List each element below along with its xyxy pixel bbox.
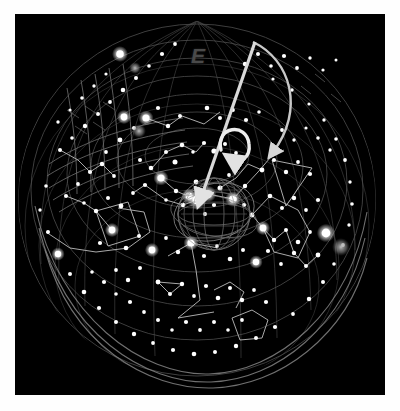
star xyxy=(156,280,161,285)
star xyxy=(64,194,68,198)
star xyxy=(58,148,62,152)
star xyxy=(100,162,104,166)
star xyxy=(308,56,311,59)
star xyxy=(295,66,299,70)
star xyxy=(114,268,118,272)
star xyxy=(216,296,221,301)
star xyxy=(171,348,175,352)
star xyxy=(280,128,284,132)
star xyxy=(292,138,295,141)
star xyxy=(170,328,174,332)
star xyxy=(308,230,312,234)
star xyxy=(292,196,296,200)
star xyxy=(156,318,160,322)
star xyxy=(234,344,238,348)
star xyxy=(112,174,116,178)
star xyxy=(304,126,307,129)
star xyxy=(218,116,222,120)
star xyxy=(118,138,123,143)
star xyxy=(335,59,338,62)
star xyxy=(106,196,110,200)
star xyxy=(124,246,129,251)
star xyxy=(119,204,124,209)
bright-star xyxy=(322,229,331,238)
star xyxy=(284,228,288,232)
star xyxy=(348,180,351,183)
star xyxy=(168,292,172,296)
star xyxy=(173,42,177,46)
star xyxy=(164,236,168,240)
star xyxy=(228,286,232,290)
star xyxy=(307,102,310,105)
star xyxy=(138,266,142,270)
star xyxy=(137,234,141,238)
star xyxy=(254,336,258,340)
star xyxy=(192,294,196,298)
bright-star xyxy=(109,227,116,234)
star xyxy=(88,170,92,174)
bright-star xyxy=(260,225,267,232)
star xyxy=(114,292,118,296)
sky-chart-canvas xyxy=(15,14,385,395)
star xyxy=(292,251,296,255)
star xyxy=(304,264,308,268)
star xyxy=(38,208,41,211)
star xyxy=(243,184,247,188)
star xyxy=(176,250,180,254)
star xyxy=(266,249,270,253)
star xyxy=(132,332,136,336)
star xyxy=(304,208,308,212)
star xyxy=(191,150,195,154)
sky-chart-plate: E xyxy=(15,14,385,395)
star xyxy=(343,158,347,162)
star xyxy=(264,300,268,304)
star xyxy=(308,172,312,176)
star xyxy=(76,182,80,186)
star xyxy=(307,297,311,301)
star xyxy=(97,306,101,310)
star xyxy=(332,262,336,266)
star xyxy=(213,350,217,354)
star xyxy=(282,54,286,58)
star xyxy=(180,143,185,148)
star xyxy=(174,189,178,193)
star xyxy=(121,88,126,93)
star xyxy=(164,198,168,202)
star xyxy=(108,100,112,104)
compass-marker-east: E xyxy=(191,45,204,66)
star xyxy=(226,328,230,332)
star xyxy=(204,284,208,288)
star xyxy=(83,124,87,128)
bright-star xyxy=(121,114,128,121)
star xyxy=(192,352,197,357)
star xyxy=(104,150,108,154)
star xyxy=(82,290,87,295)
star xyxy=(173,160,178,165)
star xyxy=(279,262,283,266)
bright-star xyxy=(149,247,156,254)
star xyxy=(241,248,245,252)
bright-star xyxy=(55,251,61,257)
star xyxy=(147,64,151,68)
star xyxy=(272,158,276,162)
star xyxy=(166,124,170,128)
star xyxy=(321,68,324,71)
star xyxy=(202,141,206,145)
star xyxy=(94,209,98,213)
star xyxy=(180,282,184,286)
star xyxy=(68,272,72,276)
star xyxy=(321,280,325,284)
star xyxy=(273,325,277,329)
star xyxy=(227,173,231,177)
star xyxy=(316,136,320,140)
star xyxy=(268,194,273,199)
star xyxy=(178,114,182,118)
star xyxy=(131,191,135,195)
star xyxy=(212,203,216,207)
star xyxy=(128,300,132,304)
star xyxy=(126,278,130,282)
star xyxy=(228,257,233,262)
star-chart-page: E xyxy=(0,0,400,411)
star xyxy=(114,320,118,324)
star xyxy=(322,118,325,121)
